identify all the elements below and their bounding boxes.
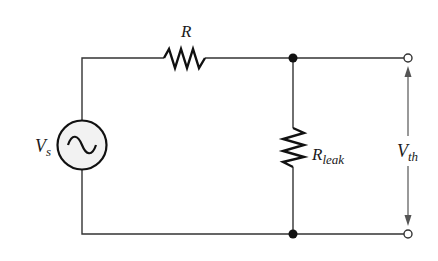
junction-top (289, 54, 298, 63)
arrow-up-icon (405, 66, 412, 77)
circuit-diagram: R Rleak Vs Vth (0, 0, 438, 261)
source-label: Vs (35, 136, 51, 159)
terminal-top (404, 54, 412, 62)
terminal-bottom (404, 230, 412, 238)
wire-top-left (82, 58, 164, 120)
resistor-r (164, 49, 205, 68)
junction-bottom (289, 230, 298, 239)
resistor-rleak-label: Rleak (311, 145, 344, 167)
arrow-down-icon (405, 215, 412, 226)
resistor-r-label: R (180, 22, 192, 41)
wire-bottom (82, 170, 404, 234)
vth-label: Vth (397, 141, 418, 164)
wires (82, 58, 404, 234)
resistor-rleak (283, 128, 304, 167)
